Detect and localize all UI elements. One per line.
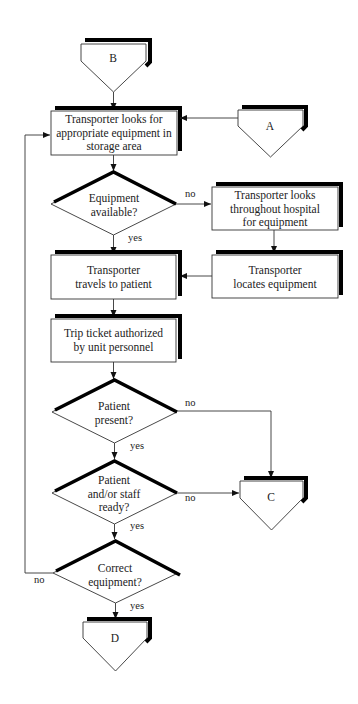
process-look-storage: Transporter looks for appropriate equipm… [51, 113, 177, 154]
decision-present: Patient present? [64, 400, 164, 427]
edge-correct-no: no [34, 574, 45, 585]
connector-b-label: B [103, 52, 123, 66]
edge-correct-yes: yes [130, 600, 144, 611]
decision-available: Equipment available? [64, 192, 164, 219]
process-trip-ticket: Trip ticket authorized by unit personnel [51, 327, 176, 354]
decision-correct: Correct equipment? [65, 562, 165, 589]
edge-present-yes: yes [130, 440, 144, 451]
connector-b-shape [81, 40, 150, 92]
connector-c-label: C [261, 491, 281, 505]
process-locates: Transporter locates equipment [212, 264, 338, 291]
edge-ready-yes: yes [130, 520, 144, 531]
edge-ready-no: no [185, 492, 196, 503]
process-look-hospital: Transporter looks throughout hospital fo… [212, 189, 338, 230]
edge-available-yes: yes [128, 232, 142, 243]
decision-ready: Patient and/or staff ready? [64, 474, 164, 515]
edge-available-no: no [185, 188, 196, 199]
connector-d-label: D [105, 632, 125, 646]
process-travels: Transporter travels to patient [51, 264, 176, 291]
edge-present-no: no [185, 397, 196, 408]
connector-a-label: A [260, 120, 280, 134]
